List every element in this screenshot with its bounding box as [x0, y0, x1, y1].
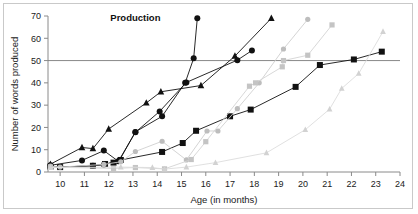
marker-square [293, 84, 299, 90]
marker-triangle [143, 99, 150, 105]
marker-circle [234, 57, 240, 63]
y-tick-label: 30 [31, 100, 41, 110]
marker-triangle [380, 28, 386, 34]
marker-circle [191, 55, 197, 61]
y-tick-label: 70 [31, 11, 41, 21]
x-tick-label: 10 [55, 179, 65, 189]
y-tick-label: 0 [36, 167, 41, 177]
child-3-black-circle-mid [47, 48, 254, 169]
marker-circle [194, 15, 200, 21]
marker-square [253, 80, 258, 85]
marker-square [281, 58, 286, 63]
x-tick-label: 24 [395, 179, 405, 189]
series-line [50, 32, 383, 170]
marker-circle [160, 139, 165, 144]
axis-labels-layer: 0102030405060701011121314151617181920212… [9, 11, 405, 205]
marker-square [111, 166, 116, 171]
marker-square [247, 84, 252, 89]
marker-circle [101, 148, 107, 154]
marker-triangle [268, 14, 275, 20]
marker-square [180, 140, 186, 146]
marker-square [159, 149, 165, 155]
x-tick-label: 19 [274, 179, 284, 189]
y-axis-title: Number of words produced [9, 37, 20, 152]
marker-square [193, 128, 199, 134]
marker-triangle [356, 70, 362, 76]
y-tick-label: 20 [31, 123, 41, 133]
x-tick-label: 16 [201, 179, 211, 189]
figure-container: 0102030405060701011121314151617181920212… [0, 0, 418, 214]
marker-circle [305, 17, 310, 22]
x-tick-label: 12 [104, 179, 114, 189]
child-2-black-triangle [47, 14, 275, 166]
marker-circle [235, 106, 240, 111]
data-series-layer [47, 14, 386, 171]
child-7-gray-triangle [48, 28, 386, 171]
x-tick-label: 13 [128, 179, 138, 189]
x-tick-label: 17 [225, 179, 235, 189]
production-line-chart: 0102030405060701011121314151617181920212… [0, 0, 418, 214]
marker-circle [204, 128, 209, 133]
y-tick-label: 60 [31, 34, 41, 44]
marker-triangle [339, 85, 345, 91]
x-tick-label: 14 [152, 179, 162, 189]
marker-square [248, 107, 254, 113]
marker-circle [118, 159, 123, 164]
marker-triangle [264, 150, 270, 156]
marker-triangle [79, 144, 86, 150]
y-tick-label: 40 [31, 78, 41, 88]
marker-circle [133, 149, 138, 154]
x-axis-title: Age (in months) [190, 194, 257, 205]
axes-layer [44, 16, 400, 176]
marker-circle [101, 162, 106, 167]
x-tick-label: 22 [346, 179, 356, 189]
marker-square [203, 139, 208, 144]
x-tick-label: 21 [322, 179, 332, 189]
marker-circle [79, 157, 85, 163]
y-tick-label: 50 [31, 56, 41, 66]
series-line [50, 18, 197, 167]
marker-square [379, 49, 385, 55]
x-tick-label: 11 [80, 179, 89, 189]
marker-square [189, 157, 194, 162]
marker-circle [183, 79, 189, 85]
marker-triangle [118, 164, 124, 170]
x-tick-label: 23 [371, 179, 381, 189]
child-5-gray-circle [48, 17, 311, 170]
chart-title: Production [110, 12, 160, 23]
marker-circle [281, 46, 286, 51]
marker-square [280, 64, 285, 69]
marker-circle [132, 129, 138, 135]
x-tick-label: 18 [249, 179, 259, 189]
marker-circle [249, 48, 255, 54]
x-tick-label: 15 [177, 179, 187, 189]
x-tick-label: 20 [298, 179, 308, 189]
marker-square [351, 56, 357, 62]
marker-square [317, 62, 323, 68]
marker-square [329, 22, 334, 27]
marker-triangle [327, 106, 333, 112]
y-tick-label: 10 [31, 145, 41, 155]
marker-triangle [302, 126, 308, 132]
child-4-black-square [47, 49, 384, 170]
marker-triangle [198, 82, 205, 88]
marker-circle [157, 108, 163, 114]
marker-triangle [105, 125, 112, 131]
marker-square [305, 53, 310, 58]
